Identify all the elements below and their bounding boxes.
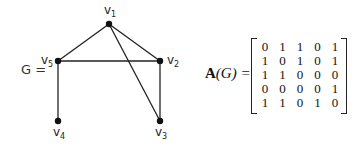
left-bracket	[251, 38, 257, 114]
cell: 0	[312, 68, 324, 82]
adjacency-matrix: 01101 10101 11000 00001 11010	[251, 38, 347, 114]
cell: 0	[277, 82, 289, 96]
right-bracket	[341, 38, 347, 114]
cell: 0	[294, 82, 306, 96]
cell: 0	[259, 40, 271, 54]
cell: 1	[259, 68, 271, 82]
cell: 0	[294, 68, 306, 82]
cell: 0	[259, 82, 271, 96]
cell: 0	[294, 96, 306, 110]
cell: 0	[277, 54, 289, 68]
vertex-v1	[106, 21, 112, 27]
edge-v1-v5	[58, 24, 109, 61]
graph-name-label: G =	[21, 62, 46, 77]
cell: 1	[277, 96, 289, 110]
vertex-label-v3: v3	[155, 125, 167, 141]
cell: 1	[294, 54, 306, 68]
cell: 0	[312, 82, 324, 96]
matrix-row-5: 11010	[259, 96, 341, 110]
cell: 0	[329, 68, 341, 82]
cell: 1	[294, 40, 306, 54]
vertex-v3	[157, 118, 163, 124]
cell: 1	[259, 96, 271, 110]
edge-v1-v2	[109, 24, 160, 61]
cell: 0	[312, 40, 324, 54]
matrix-row-1: 01101	[259, 40, 341, 54]
matrix-row-2: 10101	[259, 54, 341, 68]
matrix-label: A(G) =	[205, 65, 251, 82]
vertex-v2	[157, 58, 163, 64]
cell: 0	[329, 96, 341, 110]
vertex-label-v1: v1	[104, 3, 116, 19]
vertex-v5	[55, 58, 61, 64]
cell: 1	[277, 68, 289, 82]
cell: 1	[329, 54, 341, 68]
cell: 1	[329, 82, 341, 96]
cell: 1	[312, 96, 324, 110]
cell: 0	[312, 54, 324, 68]
vertex-v4	[55, 118, 61, 124]
matrix-row-3: 11000	[259, 68, 341, 82]
cell: 1	[329, 40, 341, 54]
vertex-label-v4: v4	[53, 125, 65, 141]
matrix-row-4: 00001	[259, 82, 341, 96]
vertex-label-v2: v2	[167, 53, 179, 69]
edge-v1-v3	[109, 24, 160, 121]
cell: 1	[277, 40, 289, 54]
cell: 1	[259, 54, 271, 68]
